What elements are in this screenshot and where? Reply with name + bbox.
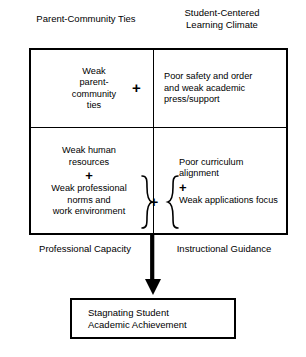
caption-professional-capacity: Professional Capacity bbox=[20, 243, 150, 255]
outcome-text: Stagnating Student Academic Achievement bbox=[72, 307, 187, 330]
professional-capacity-plus: + bbox=[37, 168, 141, 183]
brace-group bbox=[139, 175, 181, 229]
quadrant-student-centered-learning-climate: Poor safety and order and weak academic … bbox=[155, 50, 286, 127]
professional-capacity-line-1: Weak human resources bbox=[37, 145, 141, 168]
instructional-guidance-line-1: Poor curriculum alignment bbox=[179, 157, 285, 180]
caption-student-centered-learning-climate: Student-Centered Learning Climate bbox=[156, 7, 288, 30]
quadrant-professional-capacity-text: Weak human resources + Weak professional… bbox=[37, 145, 141, 217]
quadrant-parent-community-ties-text: Weak parent- community ties bbox=[55, 66, 133, 112]
instructional-guidance-plus: + bbox=[179, 180, 285, 195]
quadrant-learning-climate-text: Poor safety and order and weak academic … bbox=[155, 71, 274, 105]
outcome-box: Stagnating Student Academic Achievement bbox=[70, 298, 236, 339]
plus-operator-middle: + bbox=[150, 194, 159, 209]
essential-supports-diagram: Parent-Community Ties Student-Centered L… bbox=[0, 0, 306, 357]
quadrant-professional-capacity: Weak human resources + Weak professional… bbox=[31, 129, 153, 234]
plus-operator-top: + bbox=[132, 80, 141, 95]
right-curly-brace-icon bbox=[168, 176, 178, 228]
instructional-guidance-line-2: Weak applications focus bbox=[179, 195, 285, 206]
supports-matrix: Weak parent- community ties + Poor safet… bbox=[29, 48, 288, 235]
caption-instructional-guidance: Instructional Guidance bbox=[158, 243, 290, 255]
caption-parent-community-ties: Parent-Community Ties bbox=[20, 13, 152, 25]
professional-capacity-line-2: Weak professional norms and work environ… bbox=[37, 183, 141, 217]
down-arrow-icon bbox=[144, 234, 162, 300]
